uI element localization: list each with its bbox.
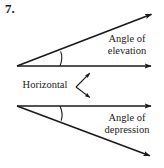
angle-of-depression-arc bbox=[60, 106, 62, 121]
angle-of-elevation-label: Angle of elevation bbox=[96, 33, 158, 56]
angle-of-elevation-arc bbox=[60, 51, 62, 66]
angle-of-depression-label: Angle of depression bbox=[95, 112, 159, 135]
angle-of-depression-label-line2: depression bbox=[95, 124, 159, 136]
horizontal-label-pointers bbox=[76, 73, 90, 97]
horizontal-pointer-down-icon bbox=[76, 87, 90, 97]
angle-of-elevation-label-line1: Angle of bbox=[96, 33, 158, 45]
angle-of-elevation-label-line2: elevation bbox=[96, 45, 158, 57]
problem-number: 7. bbox=[5, 2, 15, 16]
angle-of-depression-label-line1: Angle of bbox=[95, 112, 159, 124]
figure-container: 7. Angle of elevation Angle of depressio… bbox=[0, 0, 164, 168]
horizontal-pointer-up-icon bbox=[76, 73, 90, 87]
horizontal-label: Horizontal bbox=[13, 79, 77, 91]
